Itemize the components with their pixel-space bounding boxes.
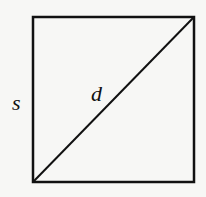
side-label: s [12,90,21,115]
diagonal-line [33,17,194,182]
square-diagonal-diagram: s d [0,0,206,197]
diagonal-label: d [91,81,103,106]
